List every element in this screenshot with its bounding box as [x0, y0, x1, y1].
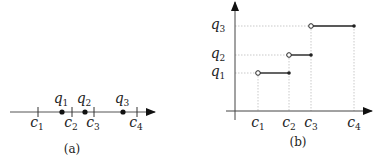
- caption-a: (a): [64, 142, 81, 156]
- tick-label-c2: c2: [64, 114, 78, 132]
- y-label-q3: q3: [211, 16, 226, 34]
- x-label-c1: c1: [251, 114, 265, 132]
- closed-endpoint: [287, 71, 291, 75]
- panel-b-step-function: c1c2c3c4q1q2q3(b): [211, 2, 372, 149]
- figure: c1c2c3c4q1q2q3(a) c1c2c3c4q1q2q3(b): [0, 0, 390, 159]
- point-label-q1: q1: [54, 90, 69, 108]
- point-marker: [120, 109, 125, 114]
- tick-label-c4: c4: [129, 114, 143, 132]
- open-endpoint: [256, 71, 261, 76]
- point-label-q3: q3: [115, 90, 130, 108]
- x-label-c4: c4: [347, 114, 361, 132]
- panel-a-number-line: c1c2c3c4q1q2q3(a): [10, 90, 155, 156]
- point-marker: [82, 109, 87, 114]
- y-label-q2: q2: [211, 45, 226, 63]
- closed-endpoint: [352, 24, 356, 28]
- x-label-c3: c3: [304, 114, 318, 132]
- point-marker: [59, 109, 64, 114]
- caption-b: (b): [289, 135, 306, 149]
- tick-label-c1: c1: [30, 114, 44, 132]
- tick-label-c3: c3: [86, 114, 100, 132]
- open-endpoint: [287, 53, 292, 58]
- closed-endpoint: [309, 53, 313, 57]
- point-label-q2: q2: [77, 90, 92, 108]
- y-label-q1: q1: [211, 63, 226, 81]
- x-label-c2: c2: [282, 114, 296, 132]
- open-endpoint: [309, 24, 314, 29]
